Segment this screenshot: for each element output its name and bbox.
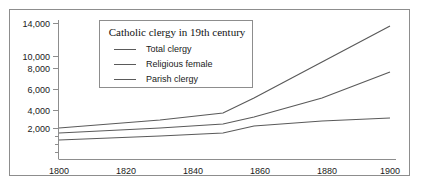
y-tick-label: 8,000 [10, 64, 50, 74]
x-tick-label: 1860 [240, 166, 280, 176]
y-tick-label: 14,000 [10, 19, 50, 29]
legend-title: Catholic clergy in 19th century [100, 26, 254, 38]
x-tick-label: 1800 [39, 166, 79, 176]
series-line-parish-clergy [59, 118, 390, 140]
x-tick-label: 1900 [370, 166, 410, 176]
x-tick-label: 1880 [307, 166, 347, 176]
legend-item-total-clergy: Total clergy [100, 43, 254, 57]
legend-swatch-icon [114, 79, 136, 80]
legend-swatch-icon [114, 64, 136, 65]
y-tick-label: 2,000 [10, 124, 50, 134]
y-tick-label: 6,000 [10, 85, 50, 95]
chart-legend: Catholic clergy in 19th century Total cl… [99, 20, 253, 88]
chart-figure: 14,000 10,000 8,000 6,000 4,000 2,000 18… [0, 0, 421, 193]
x-tick-label: 1840 [173, 166, 213, 176]
legend-item-label: Total clergy [146, 43, 192, 56]
y-tick-label: 10,000 [10, 52, 50, 62]
y-tick-label: 4,000 [10, 106, 50, 116]
legend-swatch-icon [114, 49, 136, 50]
legend-item-parish-clergy: Parish clergy [100, 73, 254, 87]
legend-item-label: Parish clergy [146, 73, 198, 86]
y-minor-tick-marks [55, 137, 59, 153]
legend-item-label: Religious female [146, 58, 213, 71]
y-tick-marks [53, 24, 59, 129]
legend-item-religious-female: Religious female [100, 58, 254, 72]
x-tick-label: 1820 [106, 166, 146, 176]
